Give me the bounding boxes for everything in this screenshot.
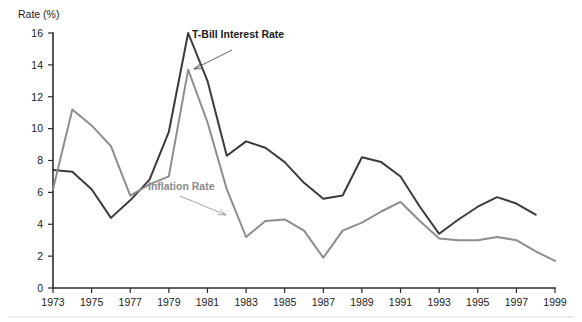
- x-tick-label: 1991: [389, 296, 413, 308]
- x-tick-label: 1979: [157, 296, 181, 308]
- series-group: [53, 33, 555, 261]
- x-axis-ticks: 1973197519771979198119831985198719891991…: [41, 288, 567, 308]
- inflation-series-label: Inflation Rate: [148, 180, 215, 192]
- y-tick-label: 8: [37, 154, 43, 166]
- t-bill-series-label: T-Bill Interest Rate: [192, 28, 284, 40]
- y-tick-label: 10: [31, 122, 43, 134]
- y-tick-label: 2: [37, 250, 43, 262]
- y-axis-title: Rate (%): [18, 8, 59, 20]
- y-tick-label: 12: [31, 91, 43, 103]
- series-line-t-bill-interest-rate: [53, 33, 536, 234]
- x-tick-label: 1997: [505, 296, 529, 308]
- y-axis-ticks: 0246810121416: [31, 27, 53, 294]
- x-tick-label: 1999: [543, 296, 567, 308]
- rate-line-chart: Rate (%) 0246810121416 19731975197719791…: [0, 0, 582, 322]
- x-tick-label: 1987: [312, 296, 336, 308]
- x-tick-label: 1975: [80, 296, 104, 308]
- x-tick-label: 1981: [196, 296, 220, 308]
- y-tick-label: 4: [37, 218, 43, 230]
- x-tick-label: 1993: [427, 296, 451, 308]
- x-tick-label: 1995: [466, 296, 490, 308]
- x-tick-label: 1973: [41, 296, 65, 308]
- y-tick-label: 6: [37, 186, 43, 198]
- y-tick-label: 14: [31, 59, 43, 71]
- x-tick-label: 1983: [234, 296, 258, 308]
- chart-figure: Rate (%) 0246810121416 19731975197719791…: [0, 0, 582, 322]
- x-tick-label: 1985: [273, 296, 297, 308]
- inflation-annotation-arrow: [180, 196, 226, 215]
- y-tick-label: 0: [37, 282, 43, 294]
- x-tick-label: 1989: [350, 296, 374, 308]
- y-tick-label: 16: [31, 27, 43, 39]
- x-tick-label: 1977: [119, 296, 143, 308]
- series-line-inflation-rate: [53, 70, 555, 261]
